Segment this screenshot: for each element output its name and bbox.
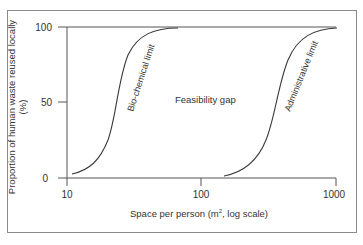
y-tick-label-100: 100 (35, 22, 52, 33)
administrative-limit-label: Administrative limit (283, 39, 321, 113)
x-axis-label: Space per person (m2, log scale) (130, 208, 268, 219)
y-axis-label: Proportion of human waste reused locally… (6, 14, 28, 200)
x-axis-label-main: Space per person (m (130, 208, 219, 219)
feasibility-gap-label: Feasibility gap (175, 94, 236, 105)
administrative-limit-curve (224, 28, 337, 176)
x-tick-label-1000: 1000 (323, 189, 346, 200)
x-axis-label-tail: , log scale) (222, 208, 268, 219)
y-tick-label-50: 50 (41, 97, 53, 108)
x-tick-label-10: 10 (61, 189, 73, 200)
biochemical-limit-curve (72, 28, 178, 174)
x-tick-label-100: 100 (193, 189, 210, 200)
biochemical-limit-label: Bio-chemical limit (125, 42, 156, 112)
y-tick-label-0: 0 (42, 173, 48, 184)
